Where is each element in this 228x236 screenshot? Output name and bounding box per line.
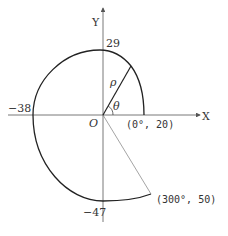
start-point-label: (0°, 20): [126, 119, 174, 130]
origin-label: O: [89, 117, 98, 130]
cam-profile-diagram: Y X O 29 −38 −47 ρ θ (0°, 20) (300°, 50): [0, 0, 228, 236]
end-point-label: (300°, 50): [156, 194, 216, 205]
rho-label: ρ: [109, 76, 117, 89]
y-positive-intercept: 29: [106, 37, 120, 50]
x-axis-label: X: [202, 110, 210, 123]
x-negative-intercept: −38: [8, 102, 31, 115]
y-negative-intercept: −47: [83, 206, 106, 219]
y-axis-label: Y: [91, 16, 100, 29]
theta-label: θ: [113, 100, 120, 113]
